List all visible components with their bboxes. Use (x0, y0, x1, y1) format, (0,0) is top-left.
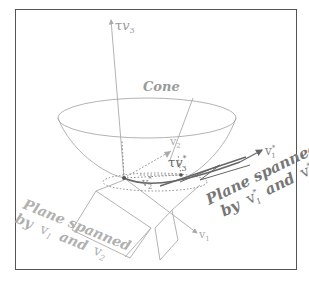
label-cone: Cone (143, 79, 180, 94)
tau-v3star-base (179, 173, 183, 177)
cone (58, 98, 236, 178)
label-plane-left: Plane spanned by v1 and v2 (12, 195, 133, 271)
label-v2: v2 (169, 135, 181, 150)
origin-point (122, 176, 126, 180)
cone-diagram: τv3 Cone v2 τv*3 v*2 v*1 v1 Plane spanne… (0, 0, 309, 285)
label-tau-v3star: τv*3 (168, 154, 187, 173)
label-v2star: v*2 (141, 175, 152, 191)
plane-v1star-v2star (155, 185, 200, 260)
label-v1: v1 (198, 228, 210, 243)
v1star-arrow (240, 150, 262, 162)
label-tau-v3: τv3 (115, 18, 135, 35)
label-plane-right: Plane spanned by v*1 and v*2 (202, 138, 309, 228)
